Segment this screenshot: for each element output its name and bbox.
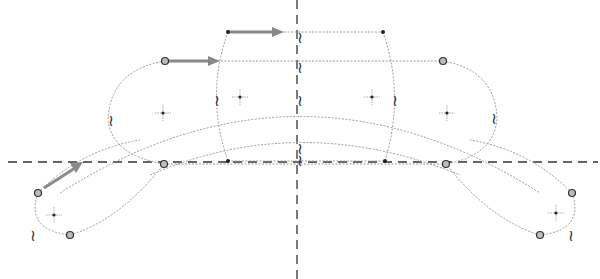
right-arm-upper[interactable]	[470, 140, 572, 193]
symmetry-marker-icon[interactable]: ≀	[297, 28, 303, 47]
sketch-svg[interactable]: ≀ ≀ ≀ ≀ ≀ ≀ ≀ ≀ ≀ ≀ ≀	[0, 0, 600, 279]
tangency-marker-icon[interactable]: ≀	[568, 226, 574, 245]
lower-arc[interactable]	[150, 143, 460, 176]
endpoint-ring[interactable]	[67, 232, 74, 239]
arc-center-2[interactable]	[232, 89, 248, 105]
arc-center-5[interactable]	[46, 207, 62, 223]
symmetry-marker-icon[interactable]: ≀	[297, 58, 303, 77]
endpoint-ring[interactable]	[161, 161, 168, 168]
endpoint-ring[interactable]	[440, 58, 447, 65]
endpoint-ring[interactable]	[569, 190, 576, 197]
sketch-point[interactable]	[381, 30, 385, 34]
endpoint-ring[interactable]	[162, 58, 169, 65]
tangency-marker-icon[interactable]: ≀	[491, 109, 497, 128]
right-end-arc[interactable]	[443, 61, 497, 164]
endpoint-ring[interactable]	[35, 190, 42, 197]
arc-center-1[interactable]	[155, 105, 171, 121]
left-arm-end[interactable]	[35, 193, 70, 235]
sketch-canvas[interactable]: ≀ ≀ ≀ ≀ ≀ ≀ ≀ ≀ ≀ ≀ ≀	[0, 0, 600, 279]
sketch-point[interactable]	[226, 30, 230, 34]
tangency-marker-icon[interactable]: ≀	[30, 226, 36, 245]
drag-arrow-top[interactable]	[228, 27, 284, 37]
endpoint-ring[interactable]	[537, 232, 544, 239]
tangency-marker-icon[interactable]: ≀	[392, 91, 398, 110]
arc-center-3[interactable]	[364, 89, 380, 105]
drag-arrow-left[interactable]	[44, 162, 83, 188]
sketch-point[interactable]	[383, 159, 387, 163]
tangency-marker-icon[interactable]: ≀	[108, 111, 114, 130]
left-end-arc[interactable]	[108, 61, 165, 164]
left-arm-upper[interactable]	[38, 140, 140, 193]
drag-arrow-upper[interactable]	[165, 56, 220, 66]
endpoint-ring[interactable]	[443, 161, 450, 168]
tangency-marker-icon[interactable]: ≀	[214, 91, 220, 110]
symmetry-marker-icon[interactable]: ≀	[297, 91, 303, 110]
symmetry-marker-icon[interactable]: ≀	[297, 151, 303, 170]
arc-center-4[interactable]	[439, 105, 455, 121]
arc-center-6[interactable]	[548, 205, 564, 221]
sketch-point[interactable]	[226, 159, 230, 163]
